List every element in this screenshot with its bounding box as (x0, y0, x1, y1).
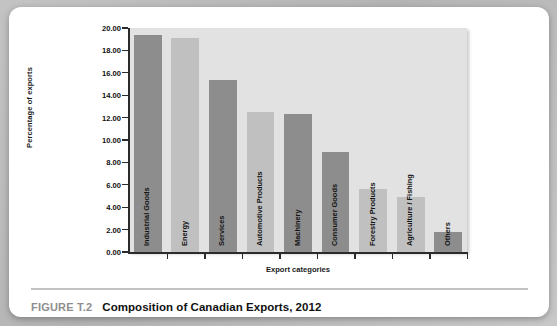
bar-category-label: Consumer Goods (330, 184, 339, 246)
y-axis-tick-label: 2.00 (85, 225, 121, 234)
y-axis-tick (122, 72, 128, 73)
bar-category-label: Automotive Products (255, 171, 264, 246)
bar-chart: Percentage of exports 0.002.004.006.008.… (9, 7, 549, 279)
x-axis-tick (317, 253, 318, 259)
bar: Agriculture / Fishing (397, 197, 425, 252)
y-axis-tick-label: 10.00 (85, 136, 121, 145)
bar: Machinery (284, 114, 312, 252)
x-axis-tick (279, 253, 280, 259)
y-axis-tick (122, 162, 128, 163)
y-axis-tick (122, 50, 128, 51)
bar: Energy (171, 38, 199, 252)
bar-category-label: Energy (180, 221, 189, 246)
bar-category-label: Industrial Goods (142, 187, 151, 246)
x-axis-tick (467, 253, 468, 259)
y-axis-tick (122, 117, 128, 118)
x-axis-tick (242, 253, 243, 259)
y-axis-tick (122, 95, 128, 96)
figure-container: Percentage of exports 0.002.004.006.008.… (0, 0, 557, 326)
y-axis-tick (122, 207, 128, 208)
y-axis-tick-label: 18.00 (85, 46, 121, 55)
bar: Forestry Products (359, 189, 387, 252)
figure-caption: FIGURE T.2 Composition of Canadian Expor… (31, 297, 321, 317)
y-axis-tick (122, 139, 128, 140)
bar-category-label: Services (217, 216, 226, 246)
bar: Automotive Products (247, 112, 275, 252)
figure-number: FIGURE T.2 (31, 301, 92, 313)
figure-card: Percentage of exports 0.002.004.006.008.… (9, 7, 549, 317)
bar: Services (209, 80, 237, 252)
y-axis-tick (122, 251, 128, 252)
caption-divider (31, 288, 528, 290)
bar: Industrial Goods (134, 35, 162, 252)
y-axis-tick (122, 27, 128, 28)
y-axis-tick-label: 20.00 (85, 24, 121, 33)
y-axis-tick-label: 6.00 (85, 180, 121, 189)
y-axis-title: Percentage of exports (25, 48, 34, 168)
y-axis-tick-label: 8.00 (85, 158, 121, 167)
bar-category-label: Agriculture / Fishing (405, 174, 414, 246)
y-axis-tick-labels: 0.002.004.006.008.0010.0012.0014.0016.00… (79, 7, 121, 279)
y-axis-tick (122, 229, 128, 230)
x-axis-line (128, 252, 468, 254)
y-axis-tick-label: 0.00 (85, 248, 121, 257)
y-axis-tick-label: 16.00 (85, 68, 121, 77)
y-axis-tick-label: 14.00 (85, 91, 121, 100)
y-axis-tick-label: 12.00 (85, 113, 121, 122)
x-axis-tick (167, 253, 168, 259)
y-axis-line (128, 28, 130, 253)
bar-category-label: Others (443, 222, 452, 246)
x-axis-title: Export categories (129, 265, 467, 274)
x-axis-tick (392, 253, 393, 259)
x-axis-tick (204, 253, 205, 259)
x-axis-tick (429, 253, 430, 259)
y-axis-tick (122, 184, 128, 185)
plot-area: Industrial GoodsEnergyServicesAutomotive… (129, 28, 467, 252)
bar-category-label: Machinery (293, 209, 302, 246)
bar-category-label: Forestry Products (368, 182, 377, 246)
bar: Others (434, 232, 462, 252)
x-axis-tick (354, 253, 355, 259)
plot-inner: Industrial GoodsEnergyServicesAutomotive… (129, 28, 467, 252)
y-axis-tick-label: 4.00 (85, 203, 121, 212)
bar: Consumer Goods (322, 152, 350, 252)
figure-title: Composition of Canadian Exports, 2012 (102, 301, 321, 313)
